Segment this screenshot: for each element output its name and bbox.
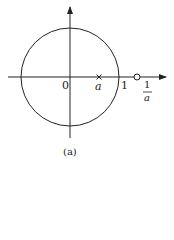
zero-label-numerator: 1 bbox=[144, 80, 150, 90]
zero-label-denominator: a bbox=[144, 93, 150, 103]
unit-label: 1 bbox=[121, 80, 128, 91]
origin-label: 0 bbox=[62, 80, 69, 91]
pole-label: a bbox=[95, 81, 102, 92]
zero-marker-icon bbox=[134, 74, 140, 80]
figure-caption: (a) bbox=[63, 147, 77, 157]
